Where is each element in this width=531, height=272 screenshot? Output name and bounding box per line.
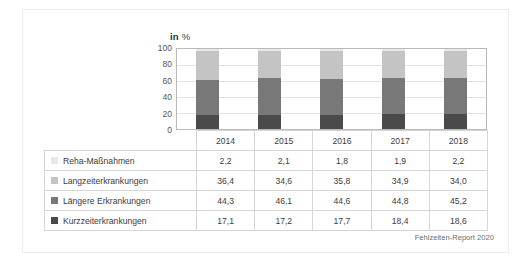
table-cell-value: 44,6	[313, 191, 371, 211]
stacked-bar[interactable]	[444, 49, 467, 129]
table-column-header: 2018	[429, 131, 487, 151]
table-body: Reha-Maßnahmen2,22,11,81,92,2Langzeiterk…	[45, 151, 488, 231]
bar-segment	[382, 114, 405, 129]
table-header-row: 20142015201620172018	[45, 131, 488, 151]
table-cell-value: 1,8	[313, 151, 371, 171]
bar-segment	[196, 115, 219, 129]
table-cell-value: 17,7	[313, 211, 371, 231]
table-cell-value: 17,2	[255, 211, 313, 231]
table-cell-value: 34,0	[429, 171, 487, 191]
table-row: Reha-Maßnahmen2,22,11,81,92,2	[45, 151, 488, 171]
table-column-header: 2017	[371, 131, 429, 151]
bar-segment	[382, 51, 405, 79]
table-column-header: 2014	[197, 131, 255, 151]
bar-segment	[382, 78, 405, 114]
legend-label-text: Längere Erkrankungen	[63, 196, 150, 206]
table-row: Kurzzeiterkrankungen17,117,217,718,418,6	[45, 211, 488, 231]
table-cell-value: 45,2	[429, 191, 487, 211]
legend-swatch-icon	[51, 177, 58, 184]
chart-bars	[177, 49, 486, 129]
table-cell-value: 44,8	[371, 191, 429, 211]
table-cell-value: 18,4	[371, 211, 429, 231]
legend-label-text: Reha-Maßnahmen	[63, 156, 135, 166]
y-axis-tick-label: 20	[163, 109, 172, 119]
data-table: 20142015201620172018 Reha-Maßnahmen2,22,…	[44, 130, 488, 231]
figure-frame: in % 020406080100 20142015201620172018 R…	[22, 9, 509, 253]
bar-segment	[196, 51, 219, 80]
bar-segment	[196, 80, 219, 115]
table-row: Längere Erkrankungen44,346,144,644,845,2	[45, 191, 488, 211]
y-axis-tick-label: 80	[163, 59, 172, 69]
table-cell-value: 34,9	[371, 171, 429, 191]
table-row-label: Längere Erkrankungen	[45, 191, 197, 211]
chart-plot-wrapper: 020406080100	[150, 48, 487, 130]
bar-segment	[444, 114, 467, 129]
y-axis-tick-label: 100	[158, 43, 172, 53]
table-cell-value: 17,1	[197, 211, 255, 231]
y-axis-tick-label: 40	[163, 92, 172, 102]
bar-segment	[320, 51, 343, 80]
table-cell-value: 44,3	[197, 191, 255, 211]
table-cell-value: 1,9	[371, 151, 429, 171]
bar-segment	[258, 51, 281, 79]
chart-plot-area	[176, 48, 487, 130]
bar-segment	[320, 79, 343, 115]
legend-label-text: Langzeiterkrankungen	[63, 176, 148, 186]
bar-segment	[258, 115, 281, 129]
chart-axis-unit-title: in %	[170, 31, 190, 42]
table-corner-cell	[45, 131, 197, 151]
table-row: Langzeiterkrankungen36,434,635,834,934,0	[45, 171, 488, 191]
table-cell-value: 46,1	[255, 191, 313, 211]
legend-swatch-icon	[51, 157, 58, 164]
bar-slot	[362, 49, 424, 129]
table-row-label: Kurzzeiterkrankungen	[45, 211, 197, 231]
stacked-bar[interactable]	[196, 49, 219, 129]
table-cell-value: 2,2	[429, 151, 487, 171]
table-cell-value: 35,8	[313, 171, 371, 191]
bar-slot	[424, 49, 486, 129]
table-cell-value: 2,2	[197, 151, 255, 171]
bar-segment	[258, 78, 281, 115]
bar-slot	[239, 49, 301, 129]
table-column-header: 2016	[313, 131, 371, 151]
source-note: Fehlzeiten-Report 2020	[415, 233, 494, 242]
stacked-bar[interactable]	[382, 49, 405, 129]
legend-label-text: Kurzzeiterkrankungen	[63, 216, 147, 226]
bar-slot	[177, 49, 239, 129]
bar-segment	[444, 78, 467, 114]
table-row-label: Reha-Maßnahmen	[45, 151, 197, 171]
stacked-bar[interactable]	[320, 49, 343, 129]
stacked-bar[interactable]	[258, 49, 281, 129]
y-axis-tick-label: 60	[163, 76, 172, 86]
chart-y-axis: 020406080100	[150, 48, 172, 130]
table-cell-value: 18,6	[429, 211, 487, 231]
table-cell-value: 36,4	[197, 171, 255, 191]
bar-slot	[301, 49, 363, 129]
table-cell-value: 2,1	[255, 151, 313, 171]
table-column-header: 2015	[255, 131, 313, 151]
chart-title-rest: %	[182, 31, 191, 42]
bar-segment	[444, 51, 467, 78]
table-row-label: Langzeiterkrankungen	[45, 171, 197, 191]
legend-swatch-icon	[51, 197, 58, 204]
legend-swatch-icon	[51, 217, 58, 224]
table-cell-value: 34,6	[255, 171, 313, 191]
chart-title-bold: in	[170, 31, 179, 42]
bar-segment	[320, 115, 343, 129]
